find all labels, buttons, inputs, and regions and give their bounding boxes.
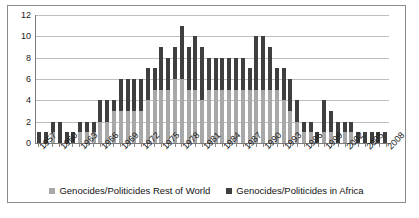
bar-column[interactable] — [145, 15, 152, 143]
bar-segment-in-africa — [227, 58, 231, 90]
bar-segment-in-africa — [193, 36, 197, 89]
bar-column[interactable] — [199, 15, 206, 143]
bar-column[interactable] — [185, 15, 192, 143]
bar-segment-in-africa — [254, 36, 258, 89]
bar-column[interactable] — [212, 15, 219, 143]
bar-column[interactable] — [131, 15, 138, 143]
bar-segment-in-africa — [173, 47, 177, 79]
bar-segment-in-africa — [85, 122, 89, 133]
bar-segment-in-africa — [302, 122, 306, 133]
bar-segment-rest-of-world — [139, 111, 143, 143]
bar-segment-in-africa — [139, 79, 143, 111]
bar-column[interactable] — [334, 15, 341, 143]
bar-series-group — [36, 15, 389, 143]
bar-segment-in-africa — [200, 47, 204, 100]
bar-segment-in-africa — [119, 79, 123, 111]
bar-column[interactable] — [104, 15, 111, 143]
bar-segment-in-africa — [159, 47, 163, 90]
bar-column[interactable] — [273, 15, 280, 143]
bar-column[interactable] — [172, 15, 179, 143]
bar-column[interactable] — [300, 15, 307, 143]
y-axis-tick-label: 10 — [21, 32, 31, 41]
y-axis-tick-label: 0 — [26, 139, 31, 148]
bar-column[interactable] — [36, 15, 43, 143]
bar-column[interactable] — [43, 15, 50, 143]
bar-segment-in-africa — [214, 58, 218, 90]
bar-column[interactable] — [50, 15, 57, 143]
bar-column[interactable] — [287, 15, 294, 143]
bar-segment-in-africa — [329, 111, 333, 132]
y-axis-tick-label: 8 — [26, 53, 31, 62]
bar-column[interactable] — [63, 15, 70, 143]
bar-column[interactable] — [226, 15, 233, 143]
bar-segment-in-africa — [275, 68, 279, 89]
bar-column[interactable] — [253, 15, 260, 143]
bar-column[interactable] — [233, 15, 240, 143]
bar-segment-in-africa — [220, 58, 224, 90]
bar-column[interactable] — [178, 15, 185, 143]
bar-column[interactable] — [246, 15, 253, 143]
bar-segment-rest-of-world — [241, 90, 245, 143]
bar-segment-in-africa — [295, 100, 299, 121]
bar-segment-in-africa — [112, 100, 116, 111]
bar-column[interactable] — [348, 15, 355, 143]
bar-segment-in-africa — [98, 100, 102, 121]
bar-column[interactable] — [97, 15, 104, 143]
bar-column[interactable] — [165, 15, 172, 143]
bar-segment-in-africa — [105, 100, 109, 121]
bar-column[interactable] — [239, 15, 246, 143]
bar-column[interactable] — [192, 15, 199, 143]
bar-segment-in-africa — [309, 122, 313, 133]
bar-column[interactable] — [321, 15, 328, 143]
bar-segment-in-africa — [261, 36, 265, 89]
bar-column[interactable] — [260, 15, 267, 143]
bar-column[interactable] — [267, 15, 274, 143]
bar-column[interactable] — [124, 15, 131, 143]
bar-column[interactable] — [138, 15, 145, 143]
bar-column[interactable] — [328, 15, 335, 143]
bar-segment-in-africa — [241, 58, 245, 90]
bar-column[interactable] — [382, 15, 389, 143]
bar-column[interactable] — [219, 15, 226, 143]
bar-column[interactable] — [77, 15, 84, 143]
bar-column[interactable] — [355, 15, 362, 143]
bar-segment-in-africa — [166, 58, 170, 90]
legend-item-in-africa: Genocides/Politicides in Africa — [226, 186, 363, 196]
bar-column[interactable] — [70, 15, 77, 143]
bar-column[interactable] — [341, 15, 348, 143]
legend-label-rest-of-world: Genocides/Politicides Rest of World — [59, 186, 210, 196]
bar-segment-in-africa — [126, 79, 130, 111]
bar-column[interactable] — [158, 15, 165, 143]
bar-segment-in-africa — [248, 68, 252, 89]
bar-column[interactable] — [280, 15, 287, 143]
bar-column[interactable] — [375, 15, 382, 143]
bar-column[interactable] — [117, 15, 124, 143]
x-axis-labels: 1957196019631966196919721975197819811984… — [35, 145, 389, 181]
bar-segment-in-africa — [349, 122, 353, 133]
bar-column[interactable] — [83, 15, 90, 143]
plot-area: 024681012 — [35, 15, 389, 144]
bar-column[interactable] — [111, 15, 118, 143]
bar-column[interactable] — [206, 15, 213, 143]
bar-column[interactable] — [56, 15, 63, 143]
bar-column[interactable] — [294, 15, 301, 143]
bar-segment-in-africa — [153, 68, 157, 89]
chart-frame: 024681012 195719601963196619691972197519… — [7, 5, 406, 203]
bar-segment-in-africa — [78, 122, 82, 133]
bar-column[interactable] — [151, 15, 158, 143]
world-swatch-icon — [49, 188, 55, 194]
bar-segment-in-africa — [187, 47, 191, 90]
y-axis-tick-label: 2 — [26, 117, 31, 126]
bar-column[interactable] — [307, 15, 314, 143]
bar-segment-in-africa — [282, 68, 286, 100]
bar-segment-in-africa — [322, 100, 326, 132]
y-axis-tick-label: 4 — [26, 96, 31, 105]
africa-swatch-icon — [226, 188, 232, 194]
bar-column[interactable] — [362, 15, 369, 143]
bar-column[interactable] — [90, 15, 97, 143]
y-axis-tick-label: 12 — [21, 11, 31, 20]
y-axis-tick-label: 6 — [26, 75, 31, 84]
bar-column[interactable] — [314, 15, 321, 143]
bar-column[interactable] — [368, 15, 375, 143]
bar-segment-in-africa — [132, 79, 136, 111]
